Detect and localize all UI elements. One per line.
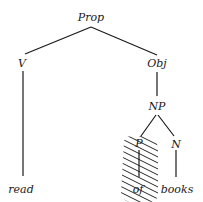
leaf-books: books bbox=[161, 183, 194, 196]
node-v: V bbox=[18, 57, 27, 70]
edge-prop-v bbox=[25, 27, 91, 54]
node-obj: Obj bbox=[147, 57, 167, 70]
node-n: N bbox=[170, 138, 181, 151]
leaf-of: of bbox=[133, 183, 146, 196]
edge-np-n bbox=[158, 115, 174, 136]
node-p: P bbox=[134, 137, 143, 150]
edge-prop-obj bbox=[91, 27, 157, 55]
syntax-tree-diagram: Prop V Obj NP P N read of books bbox=[0, 0, 203, 202]
node-prop: Prop bbox=[77, 11, 104, 24]
edge-np-p bbox=[141, 115, 156, 136]
leaf-read: read bbox=[8, 183, 33, 196]
node-np: NP bbox=[147, 100, 166, 113]
